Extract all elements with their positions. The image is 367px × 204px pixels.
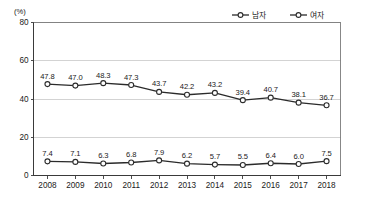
y-tick-label: 0 bbox=[24, 171, 29, 180]
y-tick-label: 20 bbox=[19, 133, 29, 142]
data-point-label: 7.1 bbox=[70, 149, 80, 158]
data-point-marker bbox=[101, 81, 106, 86]
data-point-marker bbox=[268, 161, 273, 166]
data-point-marker bbox=[129, 160, 134, 165]
data-point-marker bbox=[240, 162, 245, 167]
x-tick-label: 2010 bbox=[94, 181, 113, 190]
data-point-label: 43.7 bbox=[152, 79, 166, 88]
data-point-marker bbox=[185, 92, 190, 97]
x-tick-label: 2018 bbox=[317, 181, 336, 190]
data-point-label: 39.4 bbox=[236, 88, 250, 97]
data-point-label: 36.7 bbox=[319, 93, 333, 102]
data-point-label: 40.7 bbox=[264, 85, 278, 94]
data-point-label: 5.7 bbox=[210, 152, 220, 161]
legend-label: 여자 bbox=[310, 10, 324, 20]
legend-marker-icon bbox=[238, 13, 243, 18]
chart-background bbox=[0, 0, 367, 204]
data-point-marker bbox=[45, 82, 50, 87]
data-point-label: 6.4 bbox=[266, 151, 276, 160]
y-tick-label: 80 bbox=[19, 18, 29, 27]
data-point-marker bbox=[324, 159, 329, 164]
data-point-marker bbox=[157, 158, 162, 163]
x-tick-label: 2011 bbox=[122, 181, 140, 190]
data-point-marker bbox=[268, 95, 273, 100]
data-point-marker bbox=[129, 83, 134, 88]
line-chart: (%) 남자여자 020406080 200820092010201120122… bbox=[0, 0, 367, 204]
data-point-label: 43.2 bbox=[208, 80, 222, 89]
data-point-marker bbox=[157, 89, 162, 94]
data-point-label: 6.8 bbox=[126, 150, 136, 159]
data-point-label: 38.1 bbox=[291, 90, 305, 99]
x-tick-label: 2017 bbox=[290, 181, 309, 190]
data-point-label: 47.0 bbox=[68, 73, 82, 82]
data-point-marker bbox=[212, 162, 217, 167]
data-point-label: 7.9 bbox=[154, 148, 164, 157]
data-point-marker bbox=[212, 90, 217, 95]
data-point-marker bbox=[101, 161, 106, 166]
y-axis-unit-label-group: (%) bbox=[14, 7, 26, 16]
data-point-label: 6.0 bbox=[294, 152, 304, 161]
data-point-marker bbox=[45, 159, 50, 164]
legend-marker-icon bbox=[296, 13, 301, 18]
x-tick-label: 2013 bbox=[178, 181, 197, 190]
data-point-label: 5.5 bbox=[238, 152, 248, 161]
y-tick-label: 60 bbox=[19, 56, 29, 65]
data-point-label: 7.5 bbox=[321, 149, 331, 158]
y-tick-label: 40 bbox=[19, 95, 29, 104]
x-tick-label: 2014 bbox=[206, 181, 225, 190]
x-tick-label: 2016 bbox=[262, 181, 281, 190]
data-point-marker bbox=[296, 162, 301, 167]
legend-label: 남자 bbox=[252, 11, 266, 20]
x-tick-label: 2015 bbox=[234, 181, 253, 190]
data-point-label: 7.4 bbox=[42, 149, 52, 158]
data-point-marker bbox=[324, 103, 329, 108]
x-tick-label: 2008 bbox=[38, 181, 57, 190]
data-point-marker bbox=[296, 100, 301, 105]
data-point-marker bbox=[240, 98, 245, 103]
data-point-label: 47.3 bbox=[124, 73, 138, 82]
data-point-marker bbox=[185, 161, 190, 166]
y-axis-unit-label: (%) bbox=[14, 7, 26, 16]
x-tick-label: 2012 bbox=[150, 181, 169, 190]
data-point-marker bbox=[73, 83, 78, 88]
data-point-label: 6.2 bbox=[182, 151, 192, 160]
data-point-label: 42.2 bbox=[180, 82, 194, 91]
data-point-label: 47.8 bbox=[40, 72, 54, 81]
data-point-label: 48.3 bbox=[96, 71, 110, 80]
data-point-label: 6.3 bbox=[98, 151, 108, 160]
data-point-marker bbox=[73, 159, 78, 164]
x-tick-label: 2009 bbox=[66, 181, 85, 190]
